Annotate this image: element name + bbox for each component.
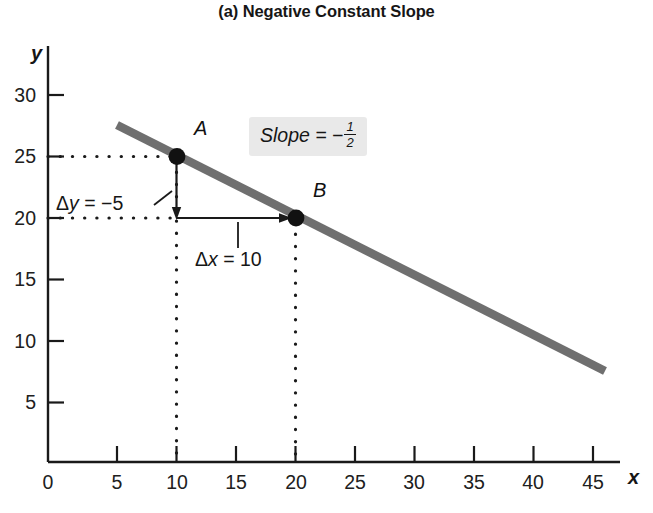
data-point-b [288,210,305,227]
x-tick-label-45: 45 [573,471,613,494]
delta-y-symbol: Δ [56,192,69,214]
delta-x-value: = 10 [218,248,262,270]
x-tick-label-5: 5 [103,471,131,494]
slope-annotation-box: Slope = −12 [249,117,367,156]
data-point-a [169,148,186,165]
origin-tick-label-0: 0 [34,471,62,494]
x-tick-label-20: 20 [276,471,316,494]
delta-x-annotation: Δx = 10 [195,248,262,271]
delta-x-arrow [177,213,293,222]
delta-y-variable: y [69,192,79,214]
x-axis-ticks [117,446,593,462]
slope-numerator: 1 [344,120,355,135]
plot-area [0,0,653,513]
slope-denominator: 2 [344,135,355,149]
delta-y-value: = −5 [79,192,123,214]
delta-y-leader-line [154,191,172,205]
x-tick-label-15: 15 [216,471,256,494]
slope-fraction: 12 [344,120,355,150]
point-label-b: B [313,179,326,202]
x-tick-label-30: 30 [394,471,434,494]
y-tick-label-30: 30 [0,84,36,107]
slope-line [117,125,605,371]
x-tick-label-40: 40 [513,471,553,494]
y-tick-label-5: 5 [0,391,36,414]
y-axis-ticks [48,95,64,403]
y-tick-label-10: 10 [0,330,36,353]
delta-x-variable: x [208,248,218,270]
figure-negative-constant-slope: (a) Negative Constant Slope [0,0,653,513]
delta-y-annotation: Δy = −5 [56,192,123,215]
delta-x-symbol: Δ [195,248,208,270]
point-label-a: A [194,117,207,140]
x-tick-label-35: 35 [454,471,494,494]
y-axis-label: y [31,42,42,65]
y-tick-label-20: 20 [0,207,36,230]
slope-prefix-text: Slope = − [260,126,343,146]
y-tick-label-15: 15 [0,268,36,291]
x-tick-label-25: 25 [335,471,375,494]
x-tick-label-10: 10 [157,471,197,494]
delta-y-arrow [172,158,181,220]
x-axis-label: x [628,466,639,489]
y-tick-label-25: 25 [0,145,36,168]
